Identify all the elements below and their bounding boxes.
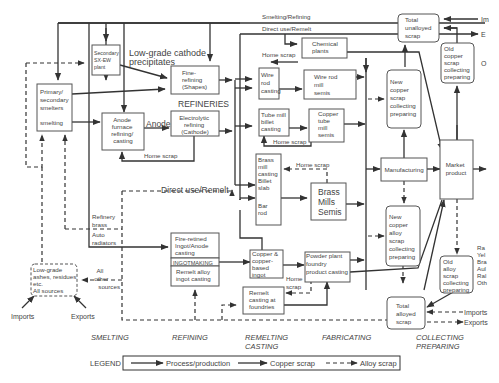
exports-left-label: Exports — [71, 313, 95, 321]
smelting-refining-label: Smelting/Refining — [262, 13, 311, 20]
stage-remelting-casting: REMELTING CASTING — [245, 333, 290, 351]
remelt-alloy-text: Remelt alloy ingot casting — [176, 268, 212, 282]
direct-use-remelt-mid-label: Direct use/Remelt — [161, 185, 229, 195]
e-cut-label: E — [481, 31, 486, 38]
home-scrap-wire-label: Home scrap — [262, 51, 296, 58]
low-grade-cathode-label: Low-grade cathode precipitates — [129, 48, 209, 67]
arrow-to-chemical — [285, 34, 297, 44]
stage-smelting: SMELTING — [91, 333, 129, 342]
direct-use-remelt-top-label: Direct use/Remelt — [262, 25, 311, 32]
refinery-brass-label: Refinery brass — [92, 213, 117, 228]
arrow-smelters-to-fine — [72, 89, 165, 94]
anode-furnace-text: Anode furnace refining/ casting — [111, 116, 135, 144]
legend-copper-label: Copper scrap — [270, 359, 315, 368]
home-scrap-powder-label: Home scrap — [286, 275, 304, 290]
stage-refining: REFINING — [172, 333, 208, 342]
stage-fabricating: FABRICATING — [322, 333, 371, 342]
stage-collecting-preparing: COLLECTING PREPARING — [416, 333, 466, 351]
arrow-imports-left — [22, 296, 34, 308]
home-scrap-anode-label: Home scrap — [144, 152, 178, 159]
legend-title: LEGEND — [90, 359, 121, 368]
arrow-exports-left — [74, 296, 86, 308]
home-scrap-tube-label: Home scrap — [273, 138, 307, 145]
auto-radiators-label: Auto radiators — [92, 231, 116, 246]
refineries-label: REFINERIES — [178, 99, 229, 109]
home-scrap-brass-label: Home scrap — [296, 161, 330, 168]
legend-process-label: Process/production — [166, 359, 230, 368]
market-product-text: Market product — [446, 161, 467, 176]
imports-left-label: Imports — [11, 313, 35, 321]
right-cut-list: Ra Yel Bra Aul Ral Oth — [477, 244, 488, 286]
home-scrap-loop-brass — [284, 169, 327, 183]
legend-alloy-label: Alloy scrap — [360, 359, 397, 368]
arrow-to-remelt-foundries — [222, 305, 236, 320]
anode-label: Anode — [146, 119, 171, 129]
exports-right-label: Exports — [464, 319, 488, 327]
imports-right-label: Imports — [464, 309, 488, 317]
ingotmaking-text: INGOTMAKING — [173, 260, 213, 266]
all-other-sources-label: All other sources — [94, 267, 120, 290]
copper-flow-diagram: Primary/ secondary smelters smelting Sec… — [0, 0, 499, 383]
manufacturing-text: Manufacturing — [384, 166, 424, 173]
im-cut-label: Im — [481, 16, 489, 23]
old-copper-up-line — [444, 28, 457, 43]
o-cut-label: O — [481, 60, 487, 67]
